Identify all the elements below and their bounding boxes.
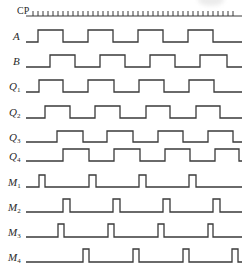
waveform-q3: [26, 131, 242, 142]
label-q1: Q1: [9, 81, 20, 94]
waveform-q4: [26, 149, 242, 161]
waveform-q1: [26, 80, 242, 92]
label-a: A: [13, 31, 20, 42]
signal-waveforms: [26, 30, 242, 262]
label-m3: M3: [8, 227, 21, 240]
waveform-q2: [26, 106, 242, 118]
label-m1: M1: [8, 177, 21, 190]
label-m4: M4: [8, 252, 21, 265]
waveform-canvas: [0, 0, 245, 280]
label-q3: Q3: [9, 132, 20, 145]
clock-waveform-cp: [26, 11, 242, 16]
label-q2: Q2: [9, 107, 20, 120]
label-cp: CP: [17, 6, 29, 16]
label-m2: M2: [8, 202, 21, 215]
timing-diagram: CP A B Q1 Q2 Q3 Q4 M1 M2 M3 M4: [0, 0, 245, 280]
clock-ticks: [26, 11, 242, 16]
waveform-b: [26, 55, 242, 67]
waveform-m1: [26, 175, 242, 187]
label-q4: Q4: [9, 151, 20, 164]
label-b: B: [13, 56, 20, 67]
waveform-m3: [26, 224, 242, 237]
waveform-m4: [26, 249, 242, 262]
waveform-a: [26, 30, 242, 42]
waveform-m2: [26, 199, 242, 212]
